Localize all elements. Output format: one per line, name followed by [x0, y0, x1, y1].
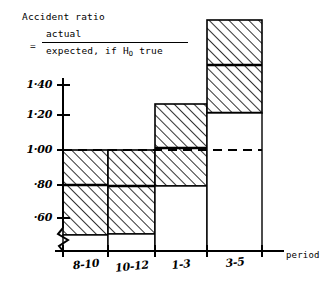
x-axis-title: period	[286, 250, 320, 260]
y-tick-label-1.40: 1·40	[12, 78, 52, 91]
y-tick-label-0.80: ·80	[12, 178, 52, 191]
bar-base-8-10	[63, 235, 108, 251]
y-tick-label-1.00: 1·00	[12, 143, 52, 156]
y-tick-label-0.60: ·60	[12, 211, 52, 224]
bar-ci-8-10	[63, 150, 108, 235]
bar-base-10-12	[108, 234, 155, 251]
bar-group-10-12[interactable]	[108, 150, 155, 251]
bar-base-1-3	[155, 186, 207, 251]
bar-ci-10-12	[108, 150, 155, 234]
bar-base-3-5	[207, 113, 262, 251]
bar-group-8-10[interactable]	[63, 150, 108, 251]
bar-group-1-3[interactable]	[155, 104, 207, 251]
bar-group-3-5[interactable]	[207, 20, 262, 251]
y-tick-label-1.20: 1·20	[12, 108, 52, 121]
bar-ci-3-5	[207, 20, 262, 113]
chart-page: Accident ratio = actual expected, if HO …	[0, 0, 329, 294]
bar-ci-1-3	[155, 104, 207, 186]
